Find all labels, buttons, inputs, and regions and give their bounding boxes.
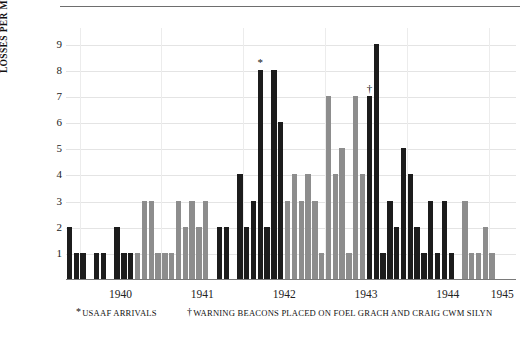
footnote-text: USAAF ARRIVALS bbox=[82, 308, 157, 319]
bar bbox=[319, 253, 324, 279]
bar bbox=[224, 227, 229, 279]
y-tick-label: 3 bbox=[40, 196, 62, 207]
chart-figure: 123456789 LOSSES PER MONTH *† 1940194119… bbox=[0, 0, 523, 340]
bar bbox=[476, 253, 481, 279]
y-tick-label: 4 bbox=[40, 169, 62, 180]
bar bbox=[462, 201, 467, 279]
bar bbox=[162, 253, 167, 279]
bar bbox=[203, 201, 208, 279]
bar bbox=[469, 253, 474, 279]
bar bbox=[189, 201, 194, 279]
bar bbox=[176, 201, 181, 279]
bar bbox=[380, 253, 385, 279]
footnote-text: WARNING BEACONS PLACED ON FOEL GRACH AND… bbox=[193, 308, 492, 319]
bar bbox=[353, 96, 358, 279]
y-tick-label: 8 bbox=[40, 65, 62, 76]
bar bbox=[169, 253, 174, 279]
bar bbox=[258, 70, 263, 279]
bar bbox=[285, 201, 290, 279]
footnote-usaaf-arrivals: * USAAF ARRIVALS bbox=[76, 308, 157, 319]
bar bbox=[271, 70, 276, 279]
bar bbox=[360, 174, 365, 279]
x-axis-tick-labels: 194019411942194319441945 bbox=[66, 288, 516, 304]
bar bbox=[326, 96, 331, 279]
bar bbox=[401, 148, 406, 279]
x-tick-label: 1940 bbox=[96, 288, 146, 300]
bar bbox=[483, 227, 488, 279]
y-tick-label: 9 bbox=[40, 39, 62, 50]
bar-series: *† bbox=[66, 28, 516, 279]
warning-beacons-marker: † bbox=[362, 83, 376, 94]
bar bbox=[128, 253, 133, 279]
plot-area: *† bbox=[66, 28, 516, 280]
bar bbox=[142, 201, 147, 279]
bar bbox=[387, 201, 392, 279]
bar bbox=[489, 253, 494, 279]
y-tick-label: 5 bbox=[40, 143, 62, 154]
asterisk-icon: * bbox=[76, 307, 81, 317]
bar bbox=[339, 148, 344, 279]
bar bbox=[442, 201, 447, 279]
bar bbox=[414, 227, 419, 279]
dagger-icon: † bbox=[187, 307, 192, 317]
y-axis-title: LOSSES PER MONTH bbox=[0, 0, 9, 92]
bar bbox=[80, 253, 85, 279]
top-horizontal-rule bbox=[60, 6, 520, 7]
y-tick-label: 2 bbox=[40, 222, 62, 233]
bar bbox=[183, 227, 188, 279]
bar bbox=[292, 174, 297, 279]
bar bbox=[135, 253, 140, 279]
bar bbox=[155, 253, 160, 279]
bar bbox=[237, 174, 242, 279]
bar bbox=[94, 253, 99, 279]
bar bbox=[408, 174, 413, 279]
bar bbox=[435, 253, 440, 279]
y-tick-label: 1 bbox=[40, 248, 62, 259]
x-axis-baseline bbox=[66, 279, 516, 280]
bar bbox=[251, 201, 256, 279]
y-tick-label: 7 bbox=[40, 91, 62, 102]
bar bbox=[374, 44, 379, 279]
usaaf-arrivals-marker: * bbox=[253, 57, 267, 68]
bar bbox=[333, 174, 338, 279]
bar bbox=[196, 227, 201, 279]
bar bbox=[149, 201, 154, 279]
bar bbox=[114, 227, 119, 279]
x-tick-label: 1941 bbox=[177, 288, 227, 300]
bar bbox=[367, 96, 372, 279]
x-tick-label: 1943 bbox=[341, 288, 391, 300]
bar bbox=[278, 122, 283, 279]
bar bbox=[264, 227, 269, 279]
bar bbox=[121, 253, 126, 279]
bar bbox=[346, 253, 351, 279]
bar bbox=[299, 201, 304, 279]
x-tick-label: 1944 bbox=[423, 288, 473, 300]
y-tick-label: 6 bbox=[40, 117, 62, 128]
bar bbox=[421, 253, 426, 279]
bar bbox=[67, 227, 72, 279]
y-axis-tick-labels: 123456789 bbox=[38, 28, 62, 280]
bar bbox=[101, 253, 106, 279]
x-tick-label: 1945 bbox=[477, 288, 523, 300]
bar bbox=[244, 227, 249, 279]
bar bbox=[428, 201, 433, 279]
footnote-row: * USAAF ARRIVALS † WARNING BEACONS PLACE… bbox=[66, 308, 518, 324]
bar bbox=[312, 201, 317, 279]
bar bbox=[74, 253, 79, 279]
bar bbox=[394, 227, 399, 279]
bar bbox=[217, 227, 222, 279]
footnote-warning-beacons: † WARNING BEACONS PLACED ON FOEL GRACH A… bbox=[187, 308, 492, 319]
bar bbox=[449, 253, 454, 279]
x-tick-label: 1942 bbox=[259, 288, 309, 300]
bar bbox=[305, 174, 310, 279]
